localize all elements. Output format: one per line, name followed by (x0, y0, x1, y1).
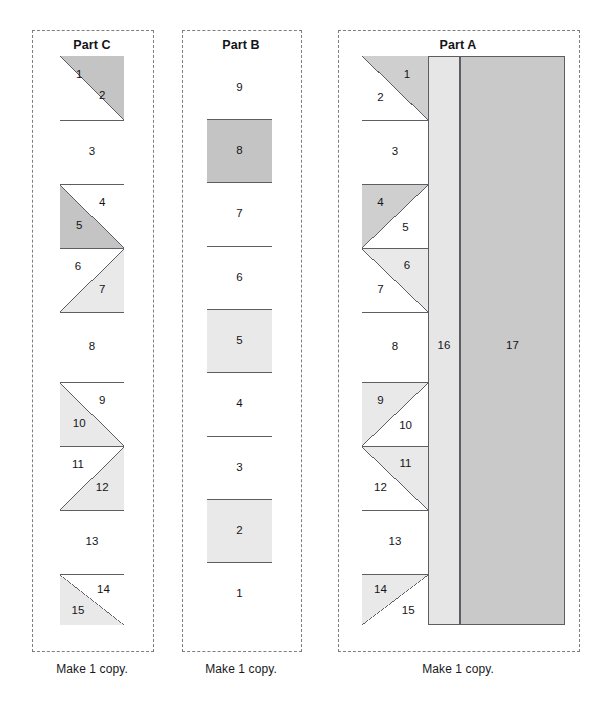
half-square-triangle (60, 383, 124, 446)
half-square-triangle (60, 447, 124, 510)
pattern-row (362, 382, 428, 446)
piece-number: 9 (236, 82, 242, 94)
piece-number: 1 (404, 69, 410, 81)
half-square-triangle (60, 249, 124, 312)
half-square-triangle (362, 185, 428, 248)
panel-caption-part-b: Make 1 copy. (182, 662, 300, 676)
piece-number: 7 (99, 284, 105, 296)
piece-number: 9 (377, 395, 383, 407)
half-square-triangle (362, 56, 428, 120)
piece-number: 3 (236, 462, 242, 474)
piece-number: 8 (236, 145, 242, 157)
piece-number: 5 (76, 220, 82, 232)
half-square-triangle (60, 56, 124, 120)
pattern-row (362, 248, 428, 312)
piece-number: 4 (236, 398, 242, 410)
piece-number: 12 (374, 482, 387, 494)
piece-number: 17 (506, 340, 519, 352)
half-square-triangle (60, 185, 124, 248)
piece-number: 3 (392, 146, 398, 158)
pattern-row (60, 56, 124, 120)
piece-number: 10 (399, 420, 412, 432)
panel-caption-part-a: Make 1 copy. (338, 662, 578, 676)
piece-number: 13 (389, 536, 402, 548)
piece-number: 14 (374, 585, 387, 597)
piece-number: 8 (89, 341, 95, 353)
pattern-row (60, 184, 124, 248)
panel-title-part-b: Part B (182, 38, 300, 52)
piece-number: 10 (73, 418, 86, 430)
piece-number: 14 (97, 585, 110, 597)
pattern-row (60, 248, 124, 312)
pattern-row (362, 184, 428, 248)
piece-number: 8 (392, 341, 398, 353)
piece-number: 6 (236, 272, 242, 284)
pattern-row (362, 574, 428, 625)
half-square-triangle (362, 383, 428, 446)
piece-number: 15 (72, 605, 85, 617)
piece-number: 3 (89, 146, 95, 158)
piece-number: 16 (438, 340, 451, 352)
piece-number: 7 (377, 284, 383, 296)
piece-number: 11 (72, 459, 84, 471)
piece-number: 15 (402, 605, 415, 617)
pattern-row (362, 56, 428, 120)
piece-number: 5 (236, 335, 242, 347)
piece-number: 2 (236, 525, 242, 537)
pattern-row (60, 382, 124, 446)
piece-number: 4 (99, 197, 105, 209)
panel-title-part-c: Part C (32, 38, 152, 52)
piece-number: 4 (377, 197, 383, 209)
piece-number: 2 (377, 92, 383, 104)
panel-caption-part-c: Make 1 copy. (32, 662, 152, 676)
piece-number: 9 (99, 395, 105, 407)
piece-number: 13 (86, 536, 99, 548)
pattern-row (362, 446, 428, 510)
piece-number: 7 (236, 208, 242, 220)
half-square-triangle (60, 575, 124, 625)
piece-number: 5 (402, 222, 408, 234)
piece-number: 1 (76, 69, 82, 81)
half-square-triangle (362, 249, 428, 312)
piece-number: 11 (400, 458, 412, 470)
piece-number: 6 (404, 260, 410, 272)
pattern-row (60, 446, 124, 510)
pattern-row (60, 574, 124, 625)
half-square-triangle (362, 575, 428, 625)
piece-number: 1 (236, 588, 242, 600)
piece-number: 12 (96, 482, 109, 494)
pattern-sheet: Part C123456789101112131415Make 1 copy.P… (0, 0, 594, 701)
half-square-triangle (362, 447, 428, 510)
piece-number: 2 (99, 90, 105, 102)
panel-title-part-a: Part A (338, 38, 578, 52)
piece-number: 6 (75, 261, 81, 273)
